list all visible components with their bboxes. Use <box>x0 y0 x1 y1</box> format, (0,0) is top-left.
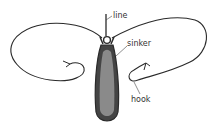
swivel-ring <box>104 37 111 44</box>
right-wire-arm <box>112 18 206 81</box>
fishing-rig-diagram: line sinker hook <box>0 0 215 130</box>
left-wire-arm <box>11 23 102 80</box>
hook-label: hook <box>131 96 151 104</box>
hook-label-leader <box>134 82 140 94</box>
sinker-label: sinker <box>127 40 151 48</box>
line-label-leader <box>106 16 112 20</box>
sinker-label-leader <box>116 46 127 56</box>
rig-illustration <box>0 0 215 130</box>
line-label: line <box>113 12 127 20</box>
sinker-face <box>100 50 115 116</box>
left-hook-barb <box>63 61 70 67</box>
